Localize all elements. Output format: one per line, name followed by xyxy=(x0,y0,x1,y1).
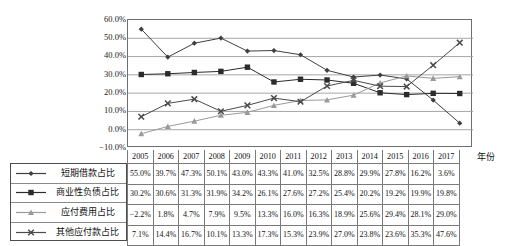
data-point-square xyxy=(165,71,170,76)
table-cell: 28.8% xyxy=(332,164,358,185)
table-cell: 19.2% xyxy=(383,184,409,205)
table-cell: 29.4% xyxy=(383,205,409,226)
table-cell: 23.9% xyxy=(306,225,332,246)
y-axis-tick-labels: 60.0%50.0%40.0%30.0%20.0%10.0%0.0%−10.0% xyxy=(68,10,126,155)
column-header-year: 2007 xyxy=(179,150,205,164)
legend-label: 应付费用占比 xyxy=(51,208,126,217)
table-cell: 28.1% xyxy=(408,205,434,226)
chart-legend: 短期借款占比商业性负债占比应付费用占比其他应付款占比 xyxy=(10,163,127,241)
y-tick-label: 60.0% xyxy=(104,15,126,24)
table-cell: 29.0% xyxy=(434,205,460,226)
table-cell: 30.2% xyxy=(128,184,154,205)
table-cell: 31.9% xyxy=(204,184,230,205)
y-tick-label: 50.0% xyxy=(104,33,126,42)
data-point-square xyxy=(457,91,462,96)
table-cell: 16.3% xyxy=(306,205,332,226)
table-cell: 15.3% xyxy=(281,225,307,246)
data-point-square xyxy=(298,77,303,82)
table-cell: 25.4% xyxy=(332,184,358,205)
data-point-diamond xyxy=(271,48,276,53)
data-point-square xyxy=(404,92,409,97)
legend-marker-square-icon xyxy=(11,183,51,202)
table-cell: 31.3% xyxy=(179,184,205,205)
table-cell: 47.3% xyxy=(179,164,205,185)
table-cell: 7.1% xyxy=(128,225,154,246)
y-tick-label: 0.0% xyxy=(108,125,126,134)
y-tick-label: 40.0% xyxy=(104,51,126,60)
table-cell: 19.9% xyxy=(408,184,434,205)
data-point-square xyxy=(377,90,382,95)
data-point-diamond xyxy=(378,72,383,77)
legend-label: 商业性负债占比 xyxy=(51,188,126,197)
line-chart-svg xyxy=(128,20,473,148)
legend-label: 短期借款占比 xyxy=(51,169,126,178)
column-header-year: 2010 xyxy=(255,150,281,164)
table-cell: 35.3% xyxy=(408,225,434,246)
table-cell: 4.7% xyxy=(179,205,205,226)
data-point-square xyxy=(192,70,197,75)
legend-item-2[interactable]: 商业性负债占比 xyxy=(11,184,126,204)
table-cell: 27.8% xyxy=(383,164,409,185)
table-cell: 13.3% xyxy=(230,225,256,246)
table-row: −2.2%1.8%4.7%7.9%9.5%13.3%16.0%16.3%18.9… xyxy=(128,205,460,226)
table-cell: 16.7% xyxy=(179,225,205,246)
table-cell: 20.2% xyxy=(357,184,383,205)
table-row: 55.0%39.7%47.3%50.1%43.0%43.3%41.0%32.5%… xyxy=(128,164,460,185)
data-point-diamond xyxy=(218,36,223,41)
table-cell: 29.9% xyxy=(357,164,383,185)
table-cell: 26.1% xyxy=(255,184,281,205)
table-cell: 9.5% xyxy=(230,205,256,226)
table-cell: 50.1% xyxy=(204,164,230,185)
table-header-row: 2005200620072008200920102011201220132014… xyxy=(128,150,460,164)
data-point-diamond xyxy=(245,48,250,53)
data-table: 2005200620072008200920102011201220132014… xyxy=(127,150,460,246)
table-cell: 34.2% xyxy=(230,184,256,205)
table-cell: 55.0% xyxy=(128,164,154,185)
chart-figure: 60.0%50.0%40.0%30.0%20.0%10.0%0.0%−10.0% xyxy=(0,0,506,152)
data-point-square xyxy=(28,190,33,195)
legend-marker-triangle-icon xyxy=(11,203,51,222)
table-cell: −2.2% xyxy=(128,205,154,226)
table-cell: 18.9% xyxy=(332,205,358,226)
table-cell: 47.6% xyxy=(434,225,460,246)
data-point-x xyxy=(430,62,436,68)
table-cell: 25.6% xyxy=(357,205,383,226)
table-cell: 30.6% xyxy=(153,184,179,205)
table-cell: 17.3% xyxy=(255,225,281,246)
legend-item-4[interactable]: 其他应付款占比 xyxy=(11,223,126,243)
data-point-diamond xyxy=(28,171,33,176)
column-header-year: 2017 xyxy=(434,150,460,164)
column-header-year: 2014 xyxy=(357,150,383,164)
legend-item-1[interactable]: 短期借款占比 xyxy=(11,164,126,184)
table-cell: 3.6% xyxy=(434,164,460,185)
legend-item-3[interactable]: 应付费用占比 xyxy=(11,203,126,223)
table-cell: 23.6% xyxy=(383,225,409,246)
table-cell: 41.0% xyxy=(281,164,307,185)
table-cell: 13.3% xyxy=(255,205,281,226)
column-header-year: 2013 xyxy=(332,150,358,164)
column-header-year: 2015 xyxy=(383,150,409,164)
data-point-square xyxy=(218,69,223,74)
data-point-square xyxy=(324,77,329,82)
table-cell: 39.7% xyxy=(153,164,179,185)
table-row: 7.1%14.4%16.7%10.1%13.3%17.3%15.3%23.9%2… xyxy=(128,225,460,246)
table-cell: 27.0% xyxy=(332,225,358,246)
y-tick-label: 30.0% xyxy=(104,70,126,79)
table-cell: 32.5% xyxy=(306,164,332,185)
legend-label: 其他应付款占比 xyxy=(51,228,126,237)
column-header-year: 2016 xyxy=(408,150,434,164)
y-tick-label: 20.0% xyxy=(104,88,126,97)
table-cell: 43.0% xyxy=(230,164,256,185)
column-header-year: 2009 xyxy=(230,150,256,164)
legend-marker-x-icon xyxy=(11,223,51,242)
data-point-square xyxy=(139,72,144,77)
table-cell: 7.9% xyxy=(204,205,230,226)
column-header-year: 2005 xyxy=(128,150,154,164)
column-header-year: 2006 xyxy=(153,150,179,164)
x-axis-title: 年份 xyxy=(477,151,495,163)
plot-area xyxy=(127,19,472,147)
table-cell: 27.6% xyxy=(281,184,307,205)
column-header-year: 2011 xyxy=(281,150,307,164)
data-point-diamond xyxy=(324,68,329,73)
